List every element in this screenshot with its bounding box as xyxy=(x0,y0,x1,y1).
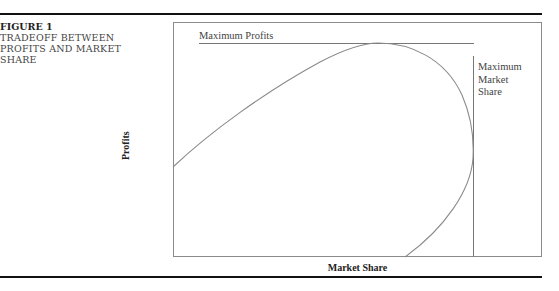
x-axis-label: Market Share xyxy=(173,262,542,273)
max-profits-label: Maximum Profits xyxy=(199,30,273,41)
max-share-line-1: Maximum xyxy=(478,61,522,74)
max-share-line-3: Share xyxy=(478,86,522,99)
max-share-line-2: Market xyxy=(478,74,522,87)
chart-area xyxy=(0,0,559,291)
tradeoff-curve xyxy=(173,43,473,257)
max-market-share-label: Maximum Market Share xyxy=(478,61,522,99)
y-axis-label: Profits xyxy=(120,131,131,160)
plot-frame xyxy=(174,23,542,257)
